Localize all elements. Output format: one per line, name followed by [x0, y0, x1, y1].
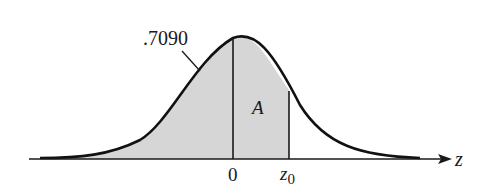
area-label-left: .7090	[143, 27, 188, 49]
axis-label-z: z	[454, 148, 463, 170]
tick-label-z0: z0	[279, 163, 295, 187]
label-leader-line	[182, 51, 200, 71]
area-label-A: A	[250, 97, 264, 118]
normal-curve-diagram: .7090 A 0 z0 z	[0, 0, 491, 190]
tick-label-zero: 0	[228, 164, 238, 185]
